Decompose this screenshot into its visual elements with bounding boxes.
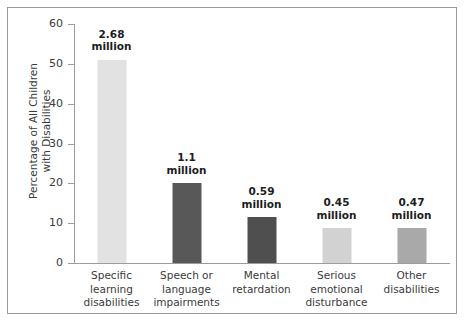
bar-value-label: 1.1million xyxy=(166,151,206,176)
bar-group: 0.47million xyxy=(374,24,449,263)
bar-group: 1.1million xyxy=(149,24,224,263)
y-tick-label: 20 xyxy=(17,177,63,188)
bar-group: 2.68million xyxy=(74,24,149,263)
bar[interactable] xyxy=(247,217,276,263)
x-axis-category-labels: SpecificlearningdisabilitiesSpeech orlan… xyxy=(74,269,449,315)
bar-value-label-line: 2.68 xyxy=(91,28,131,41)
x-axis-category-label-line: emotional xyxy=(299,283,374,297)
x-axis-category-label-line: Specific xyxy=(74,269,149,283)
bar[interactable] xyxy=(172,183,201,263)
y-tick-label: 60 xyxy=(17,18,63,29)
x-axis-category-label-line: Serious xyxy=(299,269,374,283)
x-axis-line xyxy=(74,263,450,264)
x-axis-category-label-line: retardation xyxy=(224,283,299,297)
x-axis-category-label-line: learning xyxy=(74,283,149,297)
x-axis-category-label-line: disturbance xyxy=(299,296,374,310)
bar-value-label-line: million xyxy=(241,198,281,211)
x-axis-category-label: Speech orlanguageimpairments xyxy=(149,269,224,310)
plot-area: 2.68million1.1million0.59million0.45mill… xyxy=(74,24,449,263)
x-axis-category-label-line: disabilities xyxy=(74,296,149,310)
bar[interactable] xyxy=(397,228,426,263)
x-axis-category-label: Mentalretardation xyxy=(224,269,299,296)
bar-value-label: 2.68million xyxy=(91,28,131,53)
y-tick-label: 30 xyxy=(17,138,63,149)
bar-value-label-line: 0.47 xyxy=(391,196,431,209)
bar-value-label: 0.47million xyxy=(391,196,431,221)
y-tick-label: 0 xyxy=(17,257,63,268)
bar[interactable] xyxy=(97,60,126,263)
x-axis-category-label: Otherdisabilities xyxy=(374,269,449,296)
x-axis-category-label-line: Other xyxy=(374,269,449,283)
bar-value-label: 0.59million xyxy=(241,185,281,210)
bar-value-label-line: million xyxy=(391,209,431,222)
bar-value-label-line: 0.45 xyxy=(316,196,356,209)
x-axis-category-label-line: Mental xyxy=(224,269,299,283)
bar-group: 0.59million xyxy=(224,24,299,263)
x-axis-category-label-line: language xyxy=(149,283,224,297)
bar-value-label-line: million xyxy=(91,40,131,53)
bar-group: 0.45million xyxy=(299,24,374,263)
bar-value-label-line: million xyxy=(166,164,206,177)
y-tick-label: 50 xyxy=(17,58,63,69)
x-axis-category-label: Specificlearningdisabilities xyxy=(74,269,149,310)
y-axis-ticks: 0102030405060 xyxy=(8,8,74,322)
bar-value-label: 0.45million xyxy=(316,196,356,221)
y-tick-label: 40 xyxy=(17,98,63,109)
bar-value-label-line: million xyxy=(316,209,356,222)
bar[interactable] xyxy=(322,228,351,263)
bar-value-label-line: 1.1 xyxy=(166,151,206,164)
x-axis-category-label: Seriousemotionaldisturbance xyxy=(299,269,374,310)
x-axis-category-label-line: Speech or xyxy=(149,269,224,283)
x-axis-category-label-line: impairments xyxy=(149,296,224,310)
figure-frame: Percentage of All Children with Disabili… xyxy=(7,7,457,314)
y-tick-label: 10 xyxy=(17,217,63,228)
bar-value-label-line: 0.59 xyxy=(241,185,281,198)
x-axis-category-label-line: disabilities xyxy=(374,283,449,297)
